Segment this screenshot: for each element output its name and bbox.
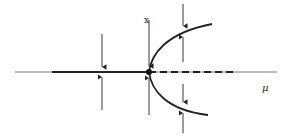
bifurcation-point bbox=[146, 69, 152, 75]
x-axis-label: x bbox=[144, 16, 149, 25]
upper-stable-branch bbox=[149, 24, 212, 72]
lower-stable-branch bbox=[149, 72, 208, 115]
mu-axis-label: μ bbox=[262, 83, 269, 93]
